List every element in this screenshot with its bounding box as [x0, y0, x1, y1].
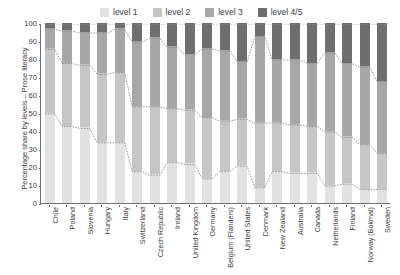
y-axis-tick-mark [39, 168, 41, 169]
y-axis-tick-mark [39, 24, 41, 25]
bar-segment [202, 178, 212, 203]
bar-segment [237, 118, 247, 165]
stacked-bar[interactable] [220, 24, 230, 203]
bar-segment [325, 23, 335, 52]
bar-segment [220, 23, 230, 50]
x-axis-tick-mark [154, 205, 155, 207]
stacked-bar[interactable] [150, 24, 160, 203]
bar-segment [97, 142, 107, 203]
bar-segment [377, 189, 387, 203]
x-axis-tick-label: Canada [314, 207, 321, 232]
bar-segment [342, 183, 352, 203]
stacked-bar[interactable] [115, 24, 125, 203]
x-axis-tick-mark [119, 205, 120, 207]
bar-segment [97, 32, 107, 73]
x-axis-tick-label: Australia [297, 207, 304, 235]
x-axis-tick-label: Hungary [104, 207, 111, 234]
chart-root: level 1level 2level 3level 4/5 Percentag… [0, 0, 400, 275]
x-axis-tick-mark [84, 205, 85, 207]
bar-segment [202, 117, 212, 178]
stacked-bar[interactable] [62, 24, 72, 203]
bar-segment [132, 41, 142, 106]
bar-segment [342, 23, 352, 63]
plot-inner: 0102030405060708090100 [41, 24, 390, 203]
bar-segment [290, 124, 300, 173]
bar-segment [185, 109, 195, 163]
bar-segment [202, 48, 212, 116]
stacked-bar[interactable] [97, 24, 107, 203]
x-axis-tick-label: Denmark [262, 207, 269, 236]
bar-segment [255, 122, 265, 187]
x-axis-tick-label: Belgium (Flanders) [227, 207, 234, 268]
bar-segment [185, 54, 195, 110]
stacked-bar[interactable] [377, 24, 387, 203]
bar-segment [237, 61, 247, 119]
x-axis-tick-label: New Zealand [279, 207, 286, 249]
legend-item[interactable]: level 4/5 [258, 8, 303, 17]
stacked-bar[interactable] [342, 24, 352, 203]
bar-segment [342, 136, 352, 183]
y-axis-tick-label: 90 [3, 38, 41, 46]
bar-segment [377, 23, 387, 81]
bar-segment [62, 23, 72, 30]
x-axis-tick-label: Slovenia [87, 207, 94, 235]
bar-segment [62, 30, 72, 62]
stacked-bar[interactable] [360, 24, 370, 203]
stacked-bar[interactable] [45, 24, 55, 203]
x-axis-tick-label: Chile [52, 207, 59, 223]
stacked-bar[interactable] [290, 24, 300, 203]
bar-segment [272, 122, 282, 171]
legend-item[interactable]: level 1 [100, 8, 138, 17]
bar-segment [377, 81, 387, 153]
bar-segment [360, 144, 370, 189]
y-axis-tick-label: 10 [3, 182, 41, 190]
bar-segment [80, 64, 90, 127]
y-axis-tick-label: 40 [3, 128, 41, 136]
x-axis-tick-mark [224, 205, 225, 207]
x-axis-tick-label: Sweden [384, 207, 391, 233]
x-axis-tick-label: Netherlands [332, 207, 339, 246]
stacked-bar[interactable] [325, 24, 335, 203]
x-axis-tick-label: Czech Republic [157, 207, 164, 257]
legend-item[interactable]: level 2 [153, 8, 191, 17]
stacked-bar[interactable] [255, 24, 265, 203]
bar-segment [307, 126, 317, 173]
y-axis-tick-mark [39, 132, 41, 133]
stacked-bar[interactable] [132, 24, 142, 203]
bar-segment [220, 120, 230, 170]
bar-segment [272, 23, 282, 59]
legend-swatch-icon [205, 8, 214, 17]
stacked-bar[interactable] [202, 24, 212, 203]
x-axis-tick-label: Norway (Bokmal) [367, 207, 374, 262]
bar-segment [290, 59, 300, 124]
bar-segment [290, 23, 300, 59]
bar-segment [45, 28, 55, 48]
bar-segment [290, 172, 300, 203]
bar-segment [80, 23, 90, 32]
bar-segment [167, 23, 177, 46]
stacked-bar[interactable] [167, 24, 177, 203]
plot-area: 0102030405060708090100 [40, 24, 390, 204]
bar-segment [360, 189, 370, 203]
bar-segment [132, 106, 142, 171]
bar-segment [272, 171, 282, 203]
chart-legend: level 1level 2level 3level 4/5 [100, 5, 350, 19]
bar-segment [97, 73, 107, 141]
y-axis-tick-mark [39, 150, 41, 151]
stacked-bar[interactable] [237, 24, 247, 203]
legend-item[interactable]: level 3 [205, 8, 243, 17]
stacked-bar[interactable] [80, 24, 90, 203]
bar-segment [80, 32, 90, 64]
bar-segment [150, 174, 160, 203]
stacked-bar[interactable] [307, 24, 317, 203]
bar-segment [45, 23, 55, 28]
stacked-bar[interactable] [185, 24, 195, 203]
bar-segment [62, 63, 72, 126]
bar-segment [132, 171, 142, 203]
bar-segment [115, 28, 125, 71]
bar-segment [45, 48, 55, 113]
legend-swatch-icon [258, 8, 267, 17]
stacked-bar[interactable] [272, 24, 282, 203]
x-axis-tick-label: Germany [209, 207, 216, 237]
x-axis-tick-mark [259, 205, 260, 207]
